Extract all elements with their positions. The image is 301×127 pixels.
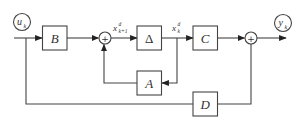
sum1-plus-sign: +	[101, 34, 109, 44]
signal-x-current-label: x d k	[171, 21, 181, 34]
input-subscript: k	[24, 23, 27, 29]
input-node-u: u k	[14, 14, 31, 31]
wire-A-to-sum1	[104, 45, 137, 84]
x-next-subscript: k+1	[119, 28, 128, 34]
block-A-label: A	[144, 76, 153, 91]
block-B: B	[43, 26, 68, 50]
block-B-label: B	[51, 31, 59, 46]
wire-x-to-A	[162, 38, 177, 83]
block-diagram: u k B + x d k+1 Δ x d k A	[0, 0, 301, 127]
input-symbol: u	[17, 16, 22, 27]
block-D: D	[193, 92, 218, 116]
block-delta-label: Δ	[145, 31, 153, 46]
x-curr-symbol: x	[171, 23, 176, 33]
output-symbol: y	[278, 17, 284, 28]
summing-junction-2: +	[245, 32, 257, 44]
output-node-y: y k	[275, 15, 292, 32]
x-next-superscript: d	[119, 21, 122, 27]
block-D-label: D	[200, 97, 211, 112]
output-subscript: k	[285, 24, 288, 30]
block-C: C	[193, 26, 218, 50]
block-delta: Δ	[137, 26, 162, 50]
summing-junction-1: +	[99, 32, 111, 44]
x-curr-subscript: k	[178, 28, 181, 34]
block-C-label: C	[201, 31, 210, 46]
signal-x-next-label: x d k+1	[112, 21, 128, 34]
x-curr-superscript: d	[178, 21, 181, 27]
x-next-symbol: x	[112, 23, 117, 33]
sum2-plus-sign: +	[247, 34, 255, 44]
wire-D-to-sum2	[218, 44, 252, 104]
block-A: A	[137, 71, 162, 95]
